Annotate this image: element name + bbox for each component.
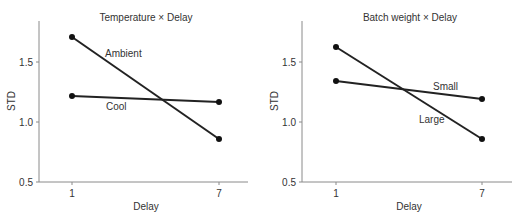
series-line-cool: [72, 96, 219, 102]
figure: Temperature × Delay 1.5 1.0 0.5 1 7 Dela…: [0, 0, 519, 218]
y-tick-label: 1.5: [19, 57, 33, 68]
y-tick-label: 0.5: [282, 177, 296, 188]
series-label-cool: Cool: [106, 101, 127, 112]
x-axis-label: Delay: [396, 201, 422, 212]
data-point: [479, 96, 485, 102]
series-line-small: [336, 81, 482, 99]
x-tick-label: 1: [333, 188, 339, 199]
y-axis-label: STD: [6, 91, 17, 111]
x-tick-label: 7: [216, 188, 222, 199]
data-point: [479, 136, 485, 142]
data-point: [216, 136, 222, 142]
series-line-ambient: [72, 37, 219, 139]
chart-title: Temperature × Delay: [99, 12, 192, 23]
y-axis-label: STD: [269, 91, 280, 111]
data-point: [69, 93, 75, 99]
y-tick-label: 1.0: [282, 117, 296, 128]
x-axis-label: Delay: [133, 201, 159, 212]
chart-batch-weight-delay: Batch weight × Delay 1.5 1.0 0.5 1 7 Del…: [269, 12, 512, 212]
data-point: [333, 44, 339, 50]
y-tick-label: 1.5: [282, 57, 296, 68]
chart-temperature-delay: Temperature × Delay 1.5 1.0 0.5 1 7 Dela…: [6, 12, 248, 212]
y-tick-label: 0.5: [19, 177, 33, 188]
data-point: [333, 78, 339, 84]
chart-title: Batch weight × Delay: [363, 12, 457, 23]
series-label-large: Large: [419, 114, 445, 125]
data-point: [69, 34, 75, 40]
x-tick-label: 7: [479, 188, 485, 199]
data-point: [216, 99, 222, 105]
series-label-small: Small: [433, 81, 458, 92]
x-tick-label: 1: [69, 188, 75, 199]
series-line-large: [336, 47, 482, 139]
y-tick-label: 1.0: [19, 117, 33, 128]
series-label-ambient: Ambient: [105, 48, 142, 59]
